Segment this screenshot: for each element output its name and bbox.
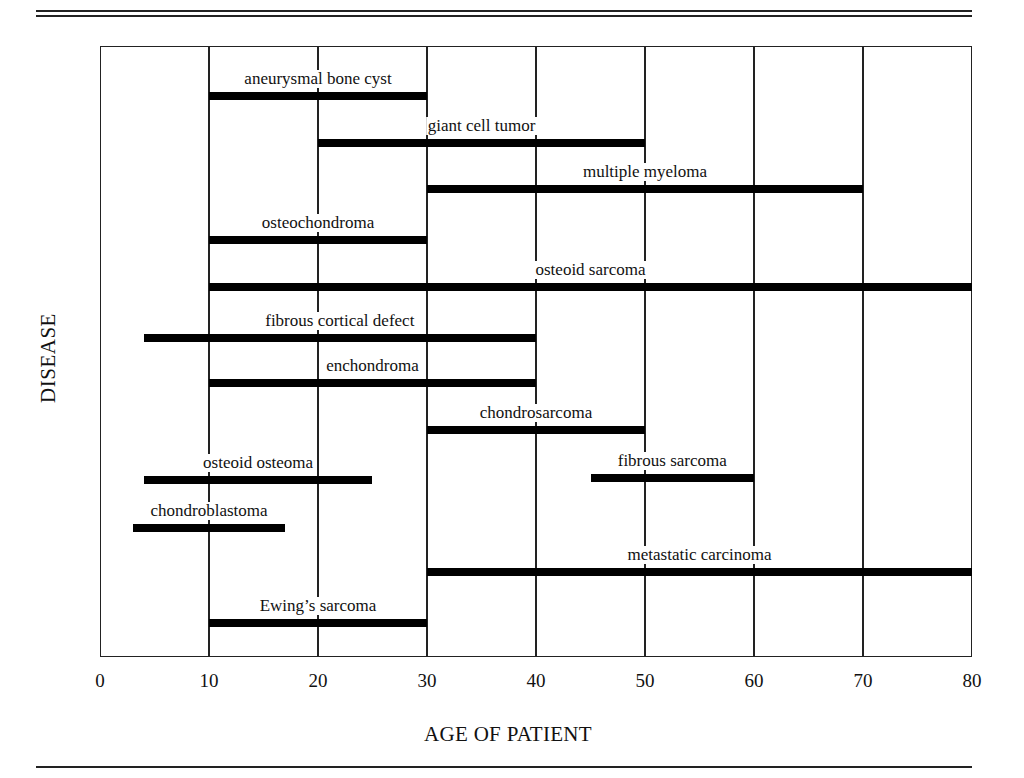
top-rule-2 bbox=[36, 15, 972, 17]
disease-label: fibrous sarcoma bbox=[616, 452, 729, 470]
x-tick-label: 10 bbox=[200, 670, 219, 692]
x-axis-label: AGE OF PATIENT bbox=[424, 722, 592, 747]
disease-bar bbox=[427, 185, 863, 193]
disease-label: Ewing’s sarcoma bbox=[258, 597, 379, 615]
disease-label: giant cell tumor bbox=[426, 117, 538, 135]
gridline-70 bbox=[862, 46, 863, 657]
disease-bar bbox=[427, 426, 645, 434]
x-tick-label: 80 bbox=[963, 670, 982, 692]
disease-bar bbox=[318, 139, 645, 147]
x-tick-label: 70 bbox=[854, 670, 873, 692]
gridline-40 bbox=[535, 46, 536, 657]
disease-label: fibrous cortical defect bbox=[263, 312, 416, 330]
disease-bar bbox=[133, 524, 286, 532]
y-axis-label: DISEASE bbox=[36, 313, 61, 403]
x-tick-label: 40 bbox=[527, 670, 546, 692]
top-rule-1 bbox=[36, 10, 972, 12]
x-tick-label: 30 bbox=[418, 670, 437, 692]
disease-bar bbox=[591, 474, 755, 482]
x-tick-label: 0 bbox=[95, 670, 105, 692]
gridline-30 bbox=[426, 46, 427, 657]
bottom-rule bbox=[36, 766, 972, 768]
gridline-50 bbox=[644, 46, 645, 657]
disease-bar bbox=[209, 379, 536, 387]
disease-label: metastatic carcinoma bbox=[626, 546, 774, 564]
disease-label: osteoid sarcoma bbox=[534, 261, 648, 279]
x-tick-label: 60 bbox=[745, 670, 764, 692]
disease-label: enchondroma bbox=[324, 357, 421, 375]
disease-label: aneurysmal bone cyst bbox=[242, 70, 393, 88]
disease-label: osteochondroma bbox=[260, 214, 376, 232]
gridline-10 bbox=[208, 46, 209, 657]
disease-bar bbox=[144, 334, 536, 342]
disease-bar bbox=[427, 568, 972, 576]
disease-label: multiple myeloma bbox=[581, 163, 709, 181]
disease-label: osteoid osteoma bbox=[201, 454, 315, 472]
disease-bar bbox=[209, 92, 427, 100]
disease-bar bbox=[209, 236, 427, 244]
x-tick-label: 50 bbox=[636, 670, 655, 692]
disease-label: chondrosarcoma bbox=[478, 404, 594, 422]
disease-bar bbox=[209, 619, 427, 627]
gridline-20 bbox=[317, 46, 318, 657]
disease-bar bbox=[144, 476, 373, 484]
disease-bar bbox=[209, 283, 972, 291]
disease-label: chondroblastoma bbox=[148, 502, 269, 520]
gridline-60 bbox=[753, 46, 754, 657]
x-tick-label: 20 bbox=[309, 670, 328, 692]
